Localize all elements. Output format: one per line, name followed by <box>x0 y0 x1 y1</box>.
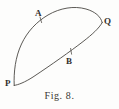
figure-container: A Q B P Fig. 8. <box>0 0 119 109</box>
figure-caption: Fig. 8. <box>0 90 119 101</box>
point-label-q: Q <box>104 17 111 26</box>
outer-arc-path <box>14 7 102 85</box>
point-label-b: B <box>66 57 72 66</box>
inner-arc-path <box>14 23 102 86</box>
point-label-p: P <box>5 79 11 88</box>
tick-mark-b <box>71 48 72 54</box>
point-label-a: A <box>35 9 42 18</box>
